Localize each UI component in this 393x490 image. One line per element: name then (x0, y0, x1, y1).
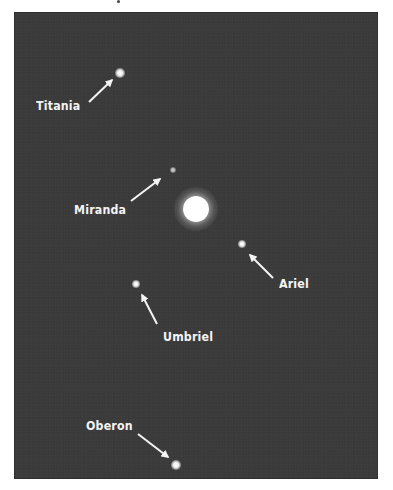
telescope-image-panel (15, 13, 377, 478)
moon-dot-titania (115, 68, 125, 78)
moon-dot-oberon (171, 460, 181, 470)
label-umbriel: Umbriel (163, 330, 213, 344)
label-oberon: Oberon (86, 419, 133, 433)
moon-dot-umbriel (132, 280, 140, 288)
label-ariel: Ariel (279, 277, 309, 291)
label-miranda: Miranda (74, 203, 126, 217)
label-titania: Titania (36, 99, 80, 113)
moon-dot-miranda (170, 167, 176, 173)
uranus-planet (183, 196, 209, 222)
cropped-caption-fragment (117, 0, 120, 3)
moon-dot-ariel (238, 240, 246, 248)
